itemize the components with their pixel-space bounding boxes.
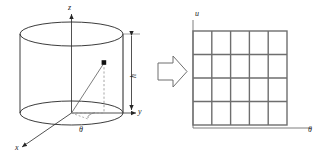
parameter-grid-cells [193, 31, 287, 125]
z-axis-label: z [68, 4, 71, 12]
surface-point-marker [102, 60, 107, 65]
height-label: h [130, 74, 138, 78]
theta-angle-label: θ [79, 126, 83, 134]
theta-arc [88, 113, 95, 118]
theta-axis-label: θ [308, 126, 312, 134]
x-axis-label: x [15, 144, 19, 152]
y-axis-label: y [138, 108, 142, 116]
maps-to-arrow-shape [158, 56, 187, 87]
theta-arc-leader [72, 113, 89, 119]
u-axis-label: u [195, 10, 199, 18]
parameter-grid-axes [193, 20, 311, 128]
x-axis-line [22, 113, 72, 147]
cylinder-body [20, 14, 123, 125]
radius-vector [72, 63, 105, 113]
diagram-svg [0, 0, 327, 161]
figure-canvas: z y x h θ u θ [0, 0, 327, 161]
